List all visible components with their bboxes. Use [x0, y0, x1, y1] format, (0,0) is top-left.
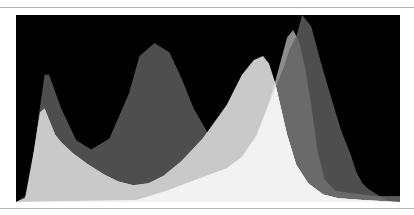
- bottom-divider: [0, 208, 414, 209]
- histogram-chart: [16, 15, 400, 202]
- top-divider: [0, 7, 414, 8]
- histogram-plot-area: [16, 15, 400, 202]
